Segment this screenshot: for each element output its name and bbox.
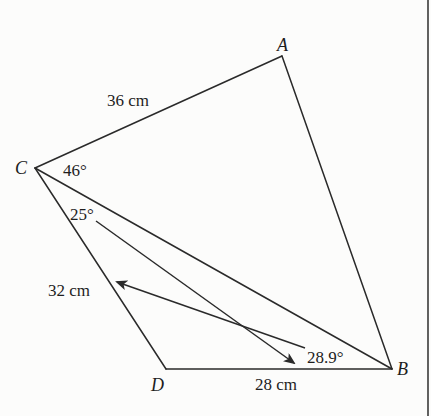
vertex-label-D: D	[150, 375, 164, 395]
vertex-label-C: C	[15, 158, 28, 178]
edge-CA	[35, 56, 282, 168]
arrow-from-25-degree-label	[96, 221, 294, 363]
side-label-CA: 36 cm	[107, 91, 149, 110]
geometry-figure: A B C D 36 cm 32 cm 28 cm 46° 25° 28.9°	[0, 0, 431, 416]
angle-label-CBD: 28.9°	[307, 348, 344, 367]
edge-AB	[282, 56, 392, 369]
diagram-canvas: A B C D 36 cm 32 cm 28 cm 46° 25° 28.9°	[0, 0, 431, 416]
vertex-label-A: A	[276, 35, 289, 55]
angle-label-ACB: 46°	[63, 161, 87, 180]
side-label-DB: 28 cm	[255, 375, 297, 394]
vertex-label-B: B	[397, 359, 408, 379]
side-label-CD: 32 cm	[48, 281, 90, 300]
edge-CB-diagonal	[35, 168, 392, 369]
edge-CD	[35, 168, 166, 369]
angle-label-BCD: 25°	[70, 205, 94, 224]
